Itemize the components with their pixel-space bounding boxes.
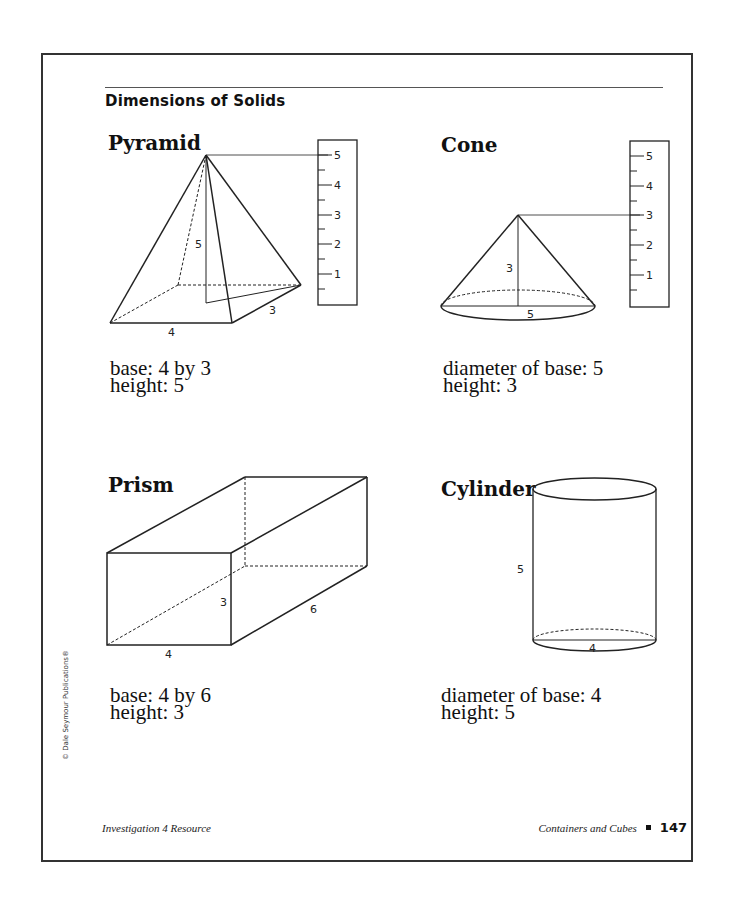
footer-book-title: Containers and Cubes (538, 822, 636, 834)
prism-figure (107, 477, 367, 645)
pyramid-figure (110, 155, 328, 323)
pyramid-height-label: 5 (195, 238, 202, 251)
footer-resource-label: Investigation 4 Resource (102, 822, 211, 834)
solids-figures: 5 4 3 5 4 3 2 1 3 5 (0, 0, 729, 913)
page-number: 147 (660, 820, 687, 835)
cone-ruler-2: 2 (646, 239, 653, 252)
cone-diameter-label: 5 (527, 308, 534, 321)
pyramid-ruler-2: 2 (334, 238, 341, 251)
pyramid-ruler-1: 1 (334, 268, 341, 281)
cone-description: diameter of base: 5 height: 3 (443, 360, 603, 394)
cylinder-diameter-label: 4 (589, 642, 596, 655)
cone-ruler-1: 1 (646, 269, 653, 282)
cylinder-description: diameter of base: 4 height: 5 (441, 687, 601, 721)
square-bullet-icon (646, 825, 651, 830)
prism-description: base: 4 by 6 height: 3 (110, 687, 211, 721)
cone-height-label: 3 (506, 262, 513, 275)
cone-ruler (630, 141, 669, 307)
pyramid-width-label: 4 (168, 326, 175, 339)
cone-ruler-4: 4 (646, 180, 653, 193)
cylinder-height-label: 5 (517, 563, 524, 576)
pyramid-ruler-3: 3 (334, 209, 341, 222)
pyramid-description: base: 4 by 3 height: 5 (110, 360, 211, 394)
footer-book-info: Containers and Cubes 147 (538, 820, 687, 835)
prism-depth-label: 6 (310, 603, 317, 616)
pyramid-ruler-5: 5 (334, 149, 341, 162)
pyramid-depth-label: 3 (269, 304, 276, 317)
copyright-notice: © Dale Seymour Publications® (62, 650, 70, 760)
cone-ruler-3: 3 (646, 209, 653, 222)
cylinder-figure (533, 478, 656, 651)
prism-width-label: 4 (165, 648, 172, 661)
pyramid-ruler-4: 4 (334, 179, 341, 192)
cone-figure (441, 215, 640, 320)
cone-ruler-5: 5 (646, 150, 653, 163)
prism-height-label: 3 (220, 596, 227, 609)
